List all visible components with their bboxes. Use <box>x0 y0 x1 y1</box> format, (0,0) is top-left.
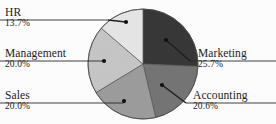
slice-label-marketing-percent: 25.7% <box>198 60 247 70</box>
slice-label-sales: Sales 20.0% <box>5 89 30 112</box>
slice-label-sales-percent: 20.0% <box>5 102 30 112</box>
slice-label-marketing-name: Marketing <box>198 47 247 59</box>
slice-label-management-name: Management <box>5 47 66 59</box>
slice-label-hr-percent: 13.7% <box>5 19 30 29</box>
pie-slices <box>88 9 198 119</box>
slice-label-accounting-name: Accounting <box>193 89 248 101</box>
slice-label-sales-name: Sales <box>5 89 30 101</box>
slice-label-accounting-percent: 20.6% <box>193 102 248 112</box>
slice-label-management-percent: 20.0% <box>5 60 66 70</box>
pie-chart-figure: HR 13.7% Management 20.0% Sales 20.0% Ma… <box>0 0 276 124</box>
pie-slice-marketing <box>143 9 198 66</box>
slice-label-management: Management 20.0% <box>5 47 66 70</box>
slice-label-accounting: Accounting 20.6% <box>193 89 248 112</box>
slice-label-hr-name: HR <box>5 6 30 18</box>
slice-label-hr: HR 13.7% <box>5 6 30 29</box>
slice-label-marketing: Marketing 25.7% <box>198 47 247 70</box>
